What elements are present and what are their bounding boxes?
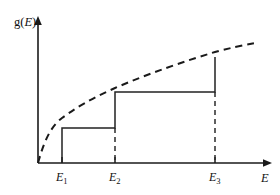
x-axis-arrow-icon bbox=[263, 159, 272, 167]
y-axis-label: g(E) bbox=[14, 15, 36, 29]
envelope-curve bbox=[38, 43, 256, 163]
density-of-states-figure: g(E) E E1 E2 E3 bbox=[0, 0, 280, 195]
x-tick-label-e2: E2 bbox=[108, 170, 121, 186]
x-axis-label: E bbox=[260, 171, 269, 185]
x-tick-label-e1: E1 bbox=[55, 170, 68, 186]
staircase-step-function bbox=[62, 57, 215, 163]
x-tick-label-e3: E3 bbox=[208, 170, 221, 186]
plot-canvas: g(E) E E1 E2 E3 bbox=[0, 0, 280, 195]
